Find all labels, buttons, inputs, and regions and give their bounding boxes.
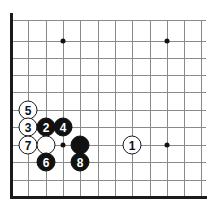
star-point-bottom-left <box>61 143 66 148</box>
stone-move-number: 1 <box>129 139 136 151</box>
grid-line-vertical-3 <box>63 20 64 197</box>
grid-line-horizontal-1 <box>11 41 206 42</box>
stone-move-number: 8 <box>77 156 84 168</box>
board-edge-bottom <box>10 196 207 199</box>
stone-white-7[interactable]: 7 <box>19 136 38 155</box>
stone-black-4[interactable]: 4 <box>54 118 73 137</box>
grid-line-horizontal-4 <box>11 92 206 93</box>
stone-black-8[interactable]: 8 <box>71 153 90 172</box>
stone-move-number: 6 <box>43 156 50 168</box>
star-point-top-right <box>165 39 170 44</box>
board-edge-left <box>10 13 13 199</box>
stone-white-3[interactable]: 3 <box>19 118 38 137</box>
grid-line-horizontal-2 <box>11 58 206 59</box>
grid-line-horizontal-0 <box>11 20 206 21</box>
stone-move-number: 3 <box>25 121 32 133</box>
grid-line-horizontal-5 <box>11 110 206 111</box>
stone-move-number: 5 <box>25 104 32 116</box>
grid-line-vertical-11 <box>201 20 202 197</box>
stone-black-6[interactable]: 6 <box>37 153 56 172</box>
grid-line-horizontal-9 <box>11 180 206 181</box>
grid-line-vertical-7 <box>132 20 133 197</box>
grid-line-horizontal-3 <box>11 75 206 76</box>
grid-line-vertical-9 <box>167 20 168 197</box>
grid-line-vertical-6 <box>115 20 116 197</box>
star-point-bottom-right <box>165 143 170 148</box>
grid-line-vertical-10 <box>184 20 185 197</box>
stone-move-number: 2 <box>43 121 50 133</box>
go-board-diagram: 53247168 <box>0 0 216 207</box>
grid-line-vertical-8 <box>150 20 151 197</box>
stone-move-number: 7 <box>25 139 32 151</box>
stone-move-number: 4 <box>60 121 67 133</box>
star-point-top-left <box>61 39 66 44</box>
grid-line-vertical-5 <box>98 20 99 197</box>
stone-white-1[interactable]: 1 <box>123 136 142 155</box>
